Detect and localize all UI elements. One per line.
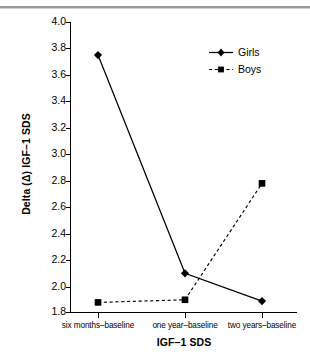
y-tick-label: 4.0 [51, 15, 66, 27]
y-tick-label: 3.2 [51, 121, 66, 133]
legend-item-girls: Girls [208, 45, 300, 62]
igf1-sds-line-chart: Delta (Δ) IGF–1 SDS 4.0 3.8 3.6 3.4 3.2 … [0, 0, 310, 359]
y-tick-label: 3.4 [51, 94, 66, 106]
series-line-girls [98, 55, 262, 301]
x-tick-label-one-year: one year–baseline [152, 321, 217, 330]
legend-label-girls: Girls [238, 46, 260, 58]
diamond-marker [94, 51, 102, 59]
x-tick-label-two-years: two years–baseline [228, 321, 296, 330]
y-tick-label: 3.6 [51, 68, 66, 80]
square-marker [182, 296, 189, 303]
y-tick-label: 2.4 [51, 227, 66, 239]
series-markers-girls [94, 51, 266, 305]
diamond-marker [258, 297, 266, 305]
series-line-boys [98, 183, 262, 302]
y-tick-label: 3.8 [51, 41, 66, 53]
y-tick-label: 3.0 [51, 147, 66, 159]
y-tick-label: 2.6 [51, 200, 66, 212]
legend-swatch-girls [208, 45, 234, 60]
square-marker [259, 180, 266, 187]
x-tick-mark [185, 313, 186, 318]
x-tick-label-six-months: six months–baseline [62, 321, 134, 330]
chart-legend: Girls Boys [208, 45, 300, 79]
x-axis-title: IGF–1 SDS [70, 336, 298, 348]
y-tick-label: 2.0 [51, 280, 66, 292]
y-axis-title: Delta (Δ) IGF–1 SDS [20, 64, 32, 264]
x-tick-mark [98, 313, 99, 318]
square-marker [95, 299, 102, 306]
x-tick-mark [262, 313, 263, 318]
diamond-marker [218, 49, 225, 57]
legend-label-boys: Boys [238, 63, 261, 75]
y-tick-label: 1.8 [51, 305, 66, 317]
y-tick-label: 2.8 [51, 174, 66, 186]
y-tick-label: 2.2 [51, 253, 66, 265]
legend-swatch-boys [208, 62, 234, 77]
series-markers-boys [95, 180, 266, 306]
legend-item-boys: Boys [208, 62, 300, 79]
diamond-marker [181, 269, 189, 277]
square-marker [218, 67, 224, 73]
